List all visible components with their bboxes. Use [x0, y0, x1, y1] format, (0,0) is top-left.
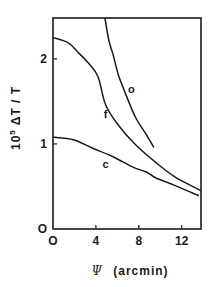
curve-label-c: c: [102, 158, 108, 170]
curve-f: [53, 38, 201, 191]
x-tick-label: 12: [175, 234, 189, 248]
curve-c: [53, 137, 199, 196]
chart: O4812 O12 ofc Ψ (arcmin) 105ΔT / T: [0, 0, 213, 287]
x-tick-label: 8: [135, 234, 142, 248]
x-axis-label: Ψ (arcmin): [91, 264, 168, 278]
y-axis-label: 105ΔT / T: [8, 86, 23, 150]
y-tick-label: O: [38, 222, 47, 236]
y-axis-ticks: O12: [38, 52, 57, 236]
y-axis-exponent: 5: [8, 129, 17, 134]
x-tick-label: 4: [93, 234, 100, 248]
data-curves: [53, 18, 201, 196]
x-tick-label: O: [48, 234, 57, 248]
x-axis-unit: (arcmin): [113, 264, 168, 278]
y-tick-label: 1: [40, 137, 47, 151]
y-axis-prefix: 10: [9, 135, 23, 150]
y-tick-label: 2: [40, 52, 47, 66]
y-axis-body: ΔT / T: [9, 86, 23, 125]
curve-label-o: o: [128, 83, 135, 95]
curve-label-f: f: [104, 108, 108, 120]
x-axis-symbol: Ψ: [91, 264, 103, 278]
